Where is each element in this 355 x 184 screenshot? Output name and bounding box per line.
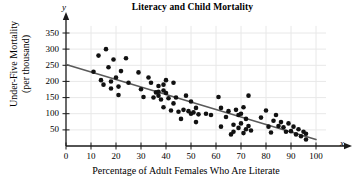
x-axis-title: Percentage of Adult Females Who Are Lite…	[46, 165, 326, 176]
scatter-plot-figure: Literacy and Child Mortality y x Under-F…	[0, 0, 355, 184]
data-point	[184, 93, 189, 98]
data-point	[106, 65, 111, 70]
x-axis-arrowhead	[344, 143, 352, 149]
data-point	[219, 106, 224, 111]
data-point	[264, 108, 269, 113]
data-point	[139, 87, 144, 92]
data-point	[99, 78, 104, 83]
data-point	[204, 111, 209, 116]
y-tick-label: 300	[33, 45, 59, 54]
data-point	[291, 124, 296, 129]
y-axis-title: Under-Five Mortality (per thousand)	[8, 5, 32, 123]
data-point	[286, 121, 291, 126]
data-point	[119, 69, 124, 74]
data-point	[299, 134, 304, 139]
data-point	[116, 84, 121, 89]
data-point	[236, 126, 241, 131]
data-point	[196, 112, 201, 117]
y-axis-arrowhead	[63, 12, 69, 20]
data-point	[216, 95, 221, 100]
data-point	[249, 128, 254, 133]
data-point	[239, 121, 244, 126]
data-point	[166, 96, 171, 101]
x-tick-label: 0	[54, 152, 78, 161]
data-point	[171, 80, 176, 85]
chart-title: Literacy and Child Mortality	[105, 2, 280, 13]
data-point	[246, 93, 251, 98]
data-point	[179, 117, 184, 122]
data-point	[269, 130, 274, 135]
data-point	[234, 108, 239, 113]
data-point	[304, 131, 309, 136]
x-tick-label: 80	[254, 152, 278, 161]
data-point	[219, 124, 224, 129]
x-tick-label: 40	[154, 152, 178, 161]
data-point	[296, 127, 301, 132]
data-point	[111, 57, 116, 62]
data-point	[109, 79, 114, 84]
data-point	[271, 119, 276, 124]
x-tick-label: 10	[79, 152, 103, 161]
data-point	[96, 53, 101, 58]
data-point	[124, 56, 129, 61]
data-point	[141, 95, 146, 100]
y-tick-label: 200	[33, 77, 59, 86]
data-point	[284, 129, 289, 134]
data-point	[244, 117, 249, 122]
data-point	[276, 124, 281, 129]
data-point	[156, 93, 161, 98]
x-tick-label: 90	[279, 152, 303, 161]
y-tick-label: 100	[33, 109, 59, 118]
data-point	[194, 106, 199, 111]
data-point	[161, 105, 166, 110]
data-point	[226, 109, 231, 114]
data-point	[109, 86, 114, 91]
data-point	[294, 132, 299, 137]
data-point	[279, 120, 284, 125]
y-axis-title-line1: Under-Five Mortality	[8, 21, 19, 107]
x-axis-variable-label: x	[340, 138, 344, 148]
data-point	[259, 115, 264, 120]
data-point	[304, 137, 309, 142]
data-point	[241, 105, 246, 110]
data-point	[164, 78, 169, 83]
data-point	[194, 120, 199, 125]
data-point	[151, 95, 156, 100]
x-tick-label: 50	[179, 152, 203, 161]
data-point	[246, 124, 251, 129]
data-point	[149, 80, 154, 85]
data-point	[101, 82, 106, 87]
data-point	[209, 113, 214, 118]
data-point	[104, 47, 109, 52]
y-tick-label: 150	[33, 93, 59, 102]
data-point	[146, 75, 151, 80]
data-point	[91, 69, 96, 74]
data-point	[116, 93, 121, 98]
data-point	[164, 91, 169, 96]
data-point	[281, 125, 286, 130]
x-tick-label: 100	[304, 152, 328, 161]
data-point	[241, 131, 246, 136]
data-point	[174, 95, 179, 100]
x-tick-label: 30	[129, 152, 153, 161]
data-point	[189, 99, 194, 104]
y-tick-label: 250	[33, 61, 59, 70]
data-point	[274, 113, 279, 118]
x-tick-label: 60	[204, 152, 228, 161]
axis-lines-group	[63, 12, 352, 149]
tick-marks-group	[63, 33, 317, 150]
y-tick-label: 350	[33, 29, 59, 38]
data-point	[231, 122, 236, 127]
y-tick-label: 50	[33, 125, 59, 134]
x-tick-label: 70	[229, 152, 253, 161]
data-point	[114, 75, 119, 80]
data-point	[191, 110, 196, 115]
data-point	[156, 84, 161, 89]
y-axis-title-line2: (per thousand)	[20, 5, 32, 123]
data-point	[171, 101, 176, 106]
data-point	[231, 129, 236, 134]
data-point	[169, 108, 174, 113]
y-axis-variable-label: y	[62, 2, 66, 12]
data-point	[161, 82, 166, 87]
data-point	[181, 108, 186, 113]
